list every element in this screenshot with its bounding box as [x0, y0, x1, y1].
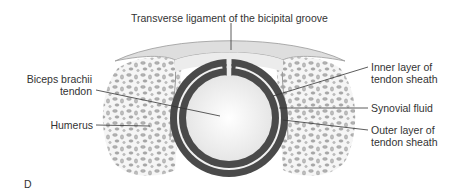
label-humerus: Humerus — [24, 119, 93, 131]
label-transverse-ligament: Transverse ligament of the bicipital gro… — [131, 12, 328, 24]
label-outer-layer-2: tendon sheath — [371, 136, 438, 148]
tendon-sheath-diagram — [0, 0, 455, 194]
panel-letter: D — [24, 178, 32, 190]
label-biceps-tendon-1: Biceps brachii — [24, 73, 92, 85]
label-inner-layer-1: Inner layer of — [371, 61, 432, 73]
biceps-tendon — [186, 75, 272, 161]
label-outer-layer-1: Outer layer of — [371, 124, 435, 136]
label-biceps-tendon-2: tendon — [24, 85, 92, 97]
label-synovial-fluid: Synovial fluid — [371, 102, 433, 114]
label-inner-layer-2: tendon sheath — [371, 73, 438, 85]
